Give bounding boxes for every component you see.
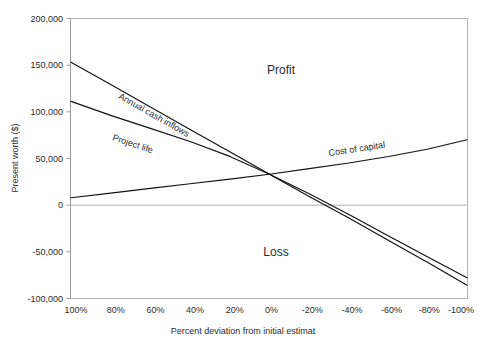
chart-canvas: 200,000 150,000 100,000 50,000 0 -50,000… (0, 0, 483, 343)
present-worth-sensitivity-chart: 200,000 150,000 100,000 50,000 0 -50,000… (0, 0, 483, 343)
region-label-profit: Profit (267, 63, 296, 77)
x-axis-title: Percent deviation from initial estimat (171, 326, 316, 336)
x-tick-label: 60% (146, 305, 164, 315)
y-tick-label: 100,000 (30, 107, 63, 117)
y-tick-label: 50,000 (35, 154, 63, 164)
y-tick-label: 150,000 (30, 60, 63, 70)
x-tick-label: -60% (381, 305, 402, 315)
y-tick-label: 0 (58, 200, 63, 210)
y-tick-label: 200,000 (30, 14, 63, 24)
y-tick-label: -100,000 (27, 294, 63, 304)
x-tick-label: -80% (419, 305, 440, 315)
x-tick-label: -40% (341, 305, 362, 315)
x-tick-label: 40% (186, 305, 204, 315)
y-tick-label: -50,000 (32, 247, 63, 257)
x-tick-label: 0% (265, 305, 278, 315)
x-tick-label: -20% (302, 305, 323, 315)
x-tick-label: 20% (226, 305, 244, 315)
x-tick-label: -100% (448, 305, 474, 315)
y-axis-ticks (67, 19, 71, 299)
x-tick-label: 80% (107, 305, 125, 315)
y-axis-title: Present worth ($) (10, 123, 20, 192)
region-label-loss: Loss (263, 245, 288, 259)
x-tick-label: 100% (64, 305, 87, 315)
